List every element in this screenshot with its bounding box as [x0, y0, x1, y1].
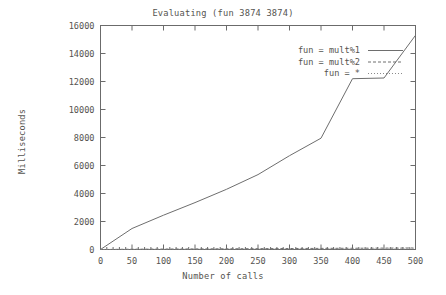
data-series-group	[101, 35, 416, 249]
legend-label-3: fun = *	[252, 69, 360, 78]
y-tick-label: 6000	[39, 162, 95, 171]
chart-figure: Evaluating (fun 3874 3874) Milliseconds …	[0, 0, 446, 295]
y-tick-label: 14000	[39, 50, 95, 59]
y-tick-label: 0	[39, 246, 95, 255]
y-tick-label: 10000	[39, 106, 95, 115]
legend-label-1: fun = mult%1	[252, 46, 360, 55]
y-tick-label: 12000	[39, 78, 95, 87]
y-tick-label: 2000	[39, 218, 95, 227]
data-series-1	[101, 35, 416, 249]
y-tick-label: 16000	[39, 22, 95, 31]
legend-label-2: fun = mult%2	[252, 58, 360, 67]
x-tick-label: 500	[396, 257, 436, 266]
y-tick-label: 4000	[39, 190, 95, 199]
y-tick-label: 8000	[39, 134, 95, 143]
legend-line-samples	[368, 51, 403, 74]
